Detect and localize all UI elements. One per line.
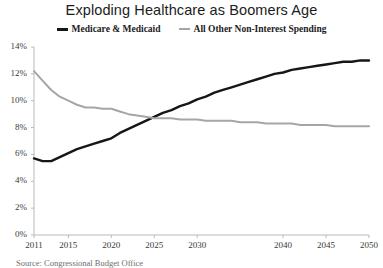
y-axis-tick-label: 4% xyxy=(1,175,27,185)
y-axis-tick-label: 2% xyxy=(1,202,27,212)
y-axis-tick-label: 0% xyxy=(1,229,27,239)
y-axis-tick-label: 10% xyxy=(1,95,27,105)
source-note: Source: Congressional Budget Office xyxy=(16,258,143,268)
y-axis-tick-label: 12% xyxy=(1,68,27,78)
series-line-medicare-medicaid xyxy=(34,60,369,161)
x-axis-tick-label: 2050 xyxy=(352,240,383,250)
x-axis-tick-label: 2015 xyxy=(51,240,85,250)
y-axis-tick-label: 8% xyxy=(1,122,27,132)
y-axis-tick-label: 14% xyxy=(1,41,27,51)
x-axis-tick-label: 2030 xyxy=(180,240,214,250)
x-axis-tick-label: 2045 xyxy=(309,240,343,250)
x-axis-tick-label: 2020 xyxy=(94,240,128,250)
x-axis-tick-label: 2011 xyxy=(17,240,51,250)
x-axis-tick-label: 2040 xyxy=(266,240,300,250)
x-axis-tick-label: 2025 xyxy=(137,240,171,250)
y-axis-tick-label: 6% xyxy=(1,148,27,158)
